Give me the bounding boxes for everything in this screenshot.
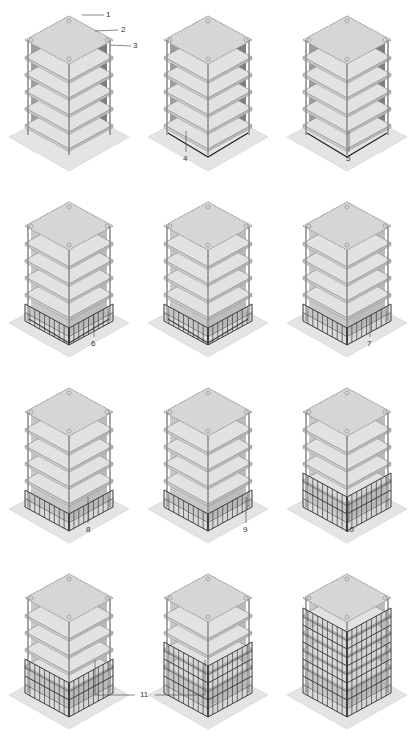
callout-leaders (0, 0, 417, 743)
